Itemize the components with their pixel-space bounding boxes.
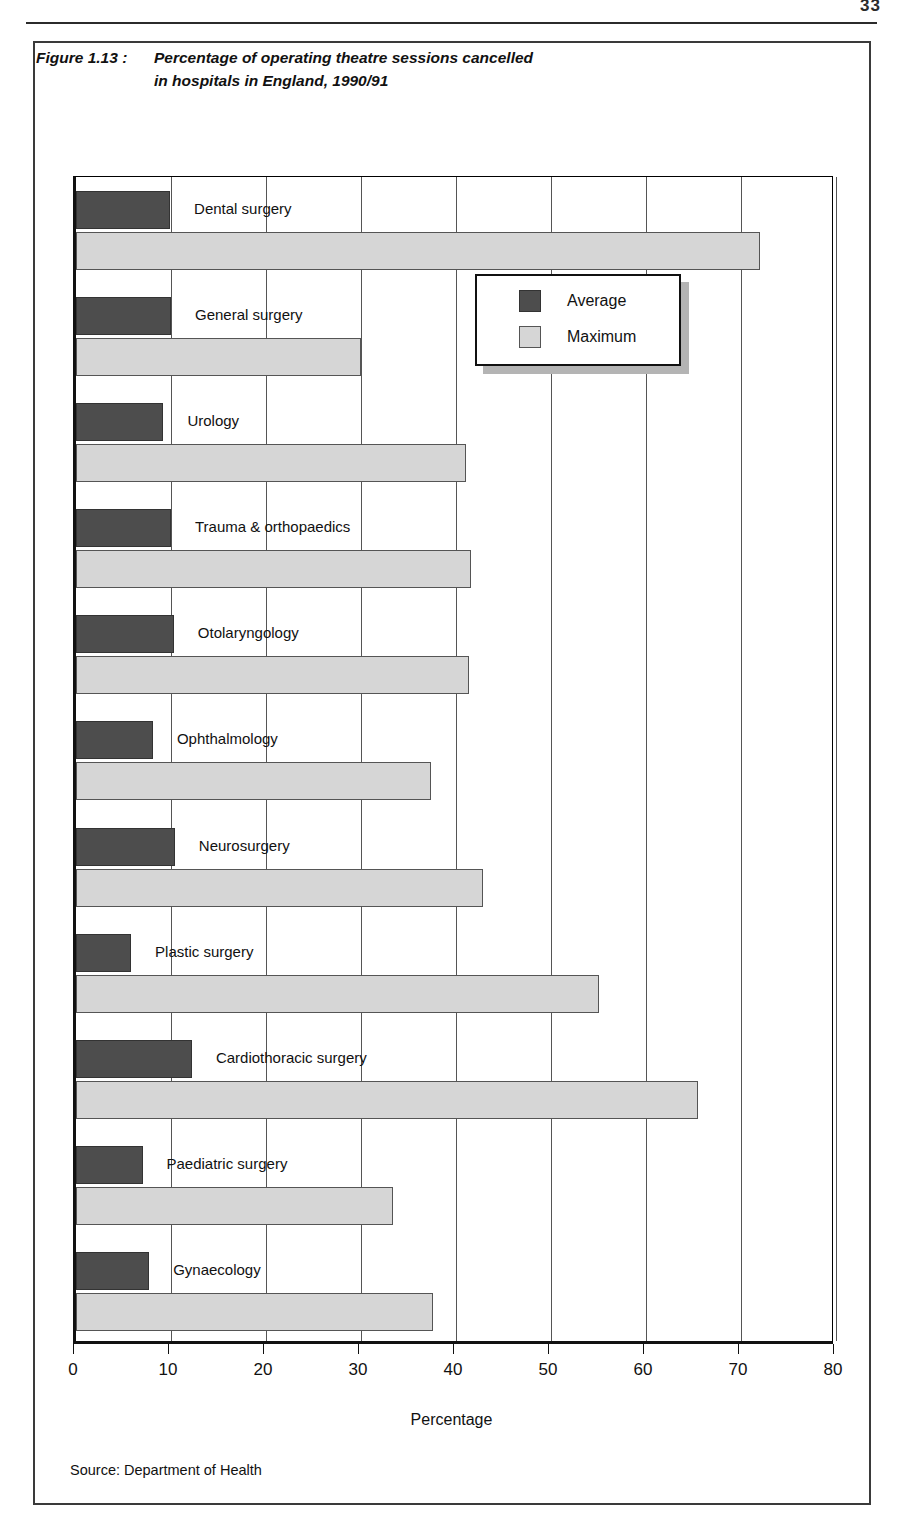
x-axis-tick bbox=[548, 1344, 549, 1354]
bar-shadow bbox=[82, 1046, 196, 1082]
x-axis-tick bbox=[738, 1344, 739, 1354]
x-axis-tick bbox=[833, 1344, 834, 1354]
chart-legend: Average Maximum bbox=[475, 274, 681, 366]
legend-label-average: Average bbox=[567, 292, 626, 310]
x-axis-tick-label: 40 bbox=[444, 1360, 463, 1380]
figure-title: Figure 1.13 :Percentage of operating the… bbox=[36, 46, 736, 92]
x-axis-tick bbox=[358, 1344, 359, 1354]
chart-group-row: Neurosurgery bbox=[76, 814, 832, 920]
chart-group-row: Paediatric surgery bbox=[76, 1133, 832, 1239]
category-label: Ophthalmology bbox=[177, 730, 278, 747]
x-axis-tick bbox=[73, 1344, 74, 1354]
page-number: 33 bbox=[860, 0, 881, 16]
chart-group-row: Dental surgery bbox=[76, 177, 832, 283]
bar-maximum bbox=[76, 1081, 698, 1119]
bar-shadow bbox=[82, 238, 764, 274]
bar-shadow bbox=[82, 450, 470, 486]
bar-maximum bbox=[76, 1187, 393, 1225]
x-axis-tick-label: 0 bbox=[68, 1360, 77, 1380]
bar-maximum bbox=[76, 869, 483, 907]
chart-plot-area: Dental surgeryGeneral surgeryUrologyTrau… bbox=[73, 176, 833, 1344]
x-axis-tick-label: 30 bbox=[349, 1360, 368, 1380]
bar-average bbox=[76, 828, 175, 866]
bar-shadow bbox=[82, 940, 135, 976]
figure-title-line-1: Percentage of operating theatre sessions… bbox=[154, 49, 533, 66]
bar-shadow bbox=[82, 662, 473, 698]
bar-average bbox=[76, 191, 170, 229]
x-axis-ticks bbox=[73, 1344, 833, 1356]
bar-shadow bbox=[82, 621, 178, 657]
bar-maximum bbox=[76, 444, 466, 482]
chart-group-row: Cardiothoracic surgery bbox=[76, 1026, 832, 1132]
bar-average bbox=[76, 1040, 192, 1078]
x-axis-tick-label: 10 bbox=[159, 1360, 178, 1380]
bar-shadow bbox=[82, 1299, 437, 1335]
bar-shadow bbox=[82, 834, 179, 870]
bar-average bbox=[76, 297, 171, 335]
bar-shadow bbox=[82, 1193, 397, 1229]
bar-maximum bbox=[76, 975, 599, 1013]
category-label: General surgery bbox=[195, 306, 303, 323]
bar-average bbox=[76, 1252, 149, 1290]
category-label: Neurosurgery bbox=[199, 837, 290, 854]
chart-group-row: Gynaecology bbox=[76, 1239, 832, 1345]
category-label: Trauma & orthopaedics bbox=[195, 518, 350, 535]
bar-average bbox=[76, 1146, 143, 1184]
category-label: Dental surgery bbox=[194, 200, 292, 217]
source-note: Source: Department of Health bbox=[70, 1462, 262, 1478]
legend-swatch-average-icon bbox=[519, 290, 541, 312]
x-axis-tick-label: 80 bbox=[824, 1360, 843, 1380]
bar-shadow bbox=[82, 197, 174, 233]
bar-average bbox=[76, 509, 171, 547]
bar-shadow bbox=[82, 1152, 147, 1188]
category-label: Cardiothoracic surgery bbox=[216, 1049, 367, 1066]
page-header-rule bbox=[26, 22, 877, 24]
chart-group-row: Plastic surgery bbox=[76, 920, 832, 1026]
bar-average bbox=[76, 615, 174, 653]
category-label: Otolaryngology bbox=[198, 624, 299, 641]
figure-label: Figure 1.13 : bbox=[36, 46, 154, 69]
x-axis-tick-label: 60 bbox=[634, 1360, 653, 1380]
bar-shadow bbox=[82, 768, 435, 804]
x-axis-tick-labels: 01020304050607080 bbox=[0, 1360, 903, 1386]
bar-average bbox=[76, 403, 163, 441]
x-axis-tick bbox=[263, 1344, 264, 1354]
bar-shadow bbox=[82, 556, 475, 592]
chart-group-row: Trauma & orthopaedics bbox=[76, 496, 832, 602]
x-axis-tick bbox=[643, 1344, 644, 1354]
bar-maximum bbox=[76, 1293, 433, 1331]
bar-shadow bbox=[82, 875, 487, 911]
bar-average bbox=[76, 721, 153, 759]
bar-maximum bbox=[76, 550, 471, 588]
bar-shadow bbox=[82, 303, 175, 339]
bar-shadow bbox=[82, 1087, 702, 1123]
chart-group-row: Ophthalmology bbox=[76, 708, 832, 814]
x-axis-title: Percentage bbox=[0, 1411, 903, 1429]
category-label: Plastic surgery bbox=[155, 943, 253, 960]
x-axis-tick bbox=[453, 1344, 454, 1354]
bar-maximum bbox=[76, 338, 361, 376]
bar-shadow bbox=[82, 1258, 153, 1294]
bar-maximum bbox=[76, 656, 469, 694]
bar-shadow bbox=[82, 515, 175, 551]
figure-title-line-2: in hospitals in England, 1990/91 bbox=[154, 72, 388, 89]
bar-maximum bbox=[76, 232, 760, 270]
bar-shadow bbox=[82, 409, 167, 445]
bar-shadow bbox=[82, 981, 603, 1017]
x-axis-tick-label: 20 bbox=[254, 1360, 273, 1380]
x-axis-tick-label: 70 bbox=[729, 1360, 748, 1380]
chart-group-row: Urology bbox=[76, 389, 832, 495]
legend-swatch-maximum-icon bbox=[519, 326, 541, 348]
category-label: Paediatric surgery bbox=[167, 1155, 288, 1172]
chart-group-row: Otolaryngology bbox=[76, 602, 832, 708]
legend-item-average: Average bbox=[519, 290, 626, 312]
legend-item-maximum: Maximum bbox=[519, 326, 636, 348]
bar-shadow bbox=[82, 727, 157, 763]
x-axis-tick-label: 50 bbox=[539, 1360, 558, 1380]
bar-maximum bbox=[76, 762, 431, 800]
category-label: Urology bbox=[187, 412, 239, 429]
category-label: Gynaecology bbox=[173, 1261, 261, 1278]
legend-label-maximum: Maximum bbox=[567, 328, 636, 346]
x-axis-tick bbox=[168, 1344, 169, 1354]
bar-average bbox=[76, 934, 131, 972]
